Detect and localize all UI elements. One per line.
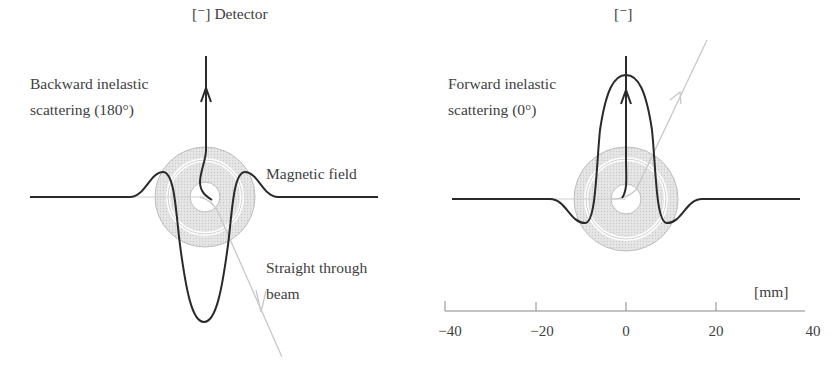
mm-axis	[445, 301, 805, 311]
forward-scattering-label-1: Forward inelastic	[448, 72, 556, 95]
right-detector-label: [⁻]	[614, 2, 633, 25]
forward-scattering-label-2: scattering (0°)	[448, 98, 536, 121]
left-detector-label: [⁻] Detector	[192, 2, 268, 25]
backward-scattering-label-2: scattering (180°)	[30, 98, 134, 121]
tick-label: 0	[622, 323, 630, 340]
diagram-canvas	[0, 0, 839, 375]
backward-scattering-label-1: Backward inelastic	[30, 72, 148, 95]
axis-unit-label: [mm]	[754, 280, 788, 303]
magnetic-field-label: Magnetic field	[266, 162, 357, 185]
tick-label: 20	[709, 323, 724, 340]
tick-label: 40	[806, 323, 821, 340]
straight-beam-label-1: Straight through	[266, 256, 367, 279]
straight-beam-label-2: beam	[266, 282, 300, 305]
tick-label: −20	[530, 323, 553, 340]
tick-label: −40	[438, 323, 461, 340]
